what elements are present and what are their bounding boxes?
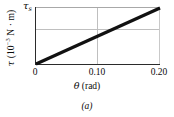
x-tick-label-0.10: 0.10 [80, 66, 114, 78]
torque-vs-angle-figure: τ (10−3 N · m) τs 0 0.10 0.20 θ (rad) (a… [0, 0, 174, 117]
x-tick-label-0: 0 [28, 66, 42, 78]
tau-s-symbol: τ [23, 0, 29, 11]
y-axis-symbol: τ [5, 61, 16, 66]
y-axis-units-prefix: (10 [6, 45, 16, 60]
tau-s-annotation: τs [23, 0, 32, 13]
figure-caption: (a) [0, 100, 174, 112]
x-tick-label-0.20: 0.20 [142, 66, 174, 78]
tau-s-subscript: s [29, 5, 32, 13]
plot-area [35, 7, 160, 65]
data-line-svg [35, 7, 160, 65]
y-axis-label: τ (10−3 N · m) [1, 2, 15, 74]
x-axis-label: θ (rad) [0, 80, 174, 92]
torque-line [36, 8, 160, 64]
x-axis-units: (rad) [79, 81, 100, 91]
y-axis-units-suffix: N · m) [6, 10, 16, 38]
y-axis-units-exponent: −3 [4, 38, 11, 45]
